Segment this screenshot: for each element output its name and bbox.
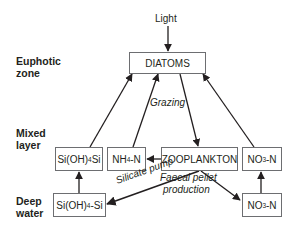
ammonium-post: -N bbox=[130, 154, 141, 165]
label-faecal-1: Faecal pellet bbox=[160, 172, 217, 183]
arrow-grazing bbox=[180, 74, 198, 146]
arrow-silicate-to-diatoms bbox=[90, 74, 132, 147]
zone-euphotic-line2: zone bbox=[16, 67, 61, 79]
zone-euphotic-line1: Euphotic bbox=[16, 55, 61, 67]
silicate-deep-pre: Si(OH) bbox=[56, 200, 87, 211]
label-faecal-2: production bbox=[163, 184, 210, 195]
nitrate-mixed-post: -N bbox=[266, 154, 277, 165]
arrow-nitrate-to-diatoms bbox=[203, 74, 254, 147]
zone-mixed: Mixed layer bbox=[16, 127, 46, 151]
node-diatoms: DIATOMS bbox=[129, 52, 206, 74]
silicate-mixed-post: Si bbox=[92, 154, 101, 165]
arrow-ammonium-to-diatoms bbox=[133, 74, 158, 147]
node-silicate-mixed: Si(OH)4Si bbox=[55, 147, 103, 171]
zone-euphotic: Euphotic zone bbox=[16, 55, 61, 79]
silicate-mixed-pre: Si(OH) bbox=[57, 154, 88, 165]
zone-deep: Deep water bbox=[16, 195, 43, 219]
node-nitrate-mixed: NO3-N bbox=[242, 147, 282, 171]
zone-mixed-line1: Mixed bbox=[16, 127, 46, 139]
nitrate-deep-post: -N bbox=[266, 200, 277, 211]
zone-deep-line1: Deep bbox=[16, 195, 43, 207]
zone-mixed-line2: layer bbox=[16, 139, 46, 151]
ammonium-pre: NH bbox=[112, 154, 126, 165]
zone-deep-line2: water bbox=[16, 207, 43, 219]
node-silicate-deep: Si(OH)4-Si bbox=[53, 193, 106, 217]
nitrate-mixed-pre: NO bbox=[247, 154, 262, 165]
node-diatoms-label: DIATOMS bbox=[145, 58, 190, 69]
silicate-deep-post: -Si bbox=[90, 200, 102, 211]
light-label: Light bbox=[155, 13, 177, 24]
node-nitrate-deep: NO3-N bbox=[242, 193, 282, 217]
node-zooplankton: ZOOPLANKTON bbox=[161, 147, 238, 171]
label-grazing: Grazing bbox=[150, 97, 185, 108]
nitrate-deep-pre: NO bbox=[247, 200, 262, 211]
